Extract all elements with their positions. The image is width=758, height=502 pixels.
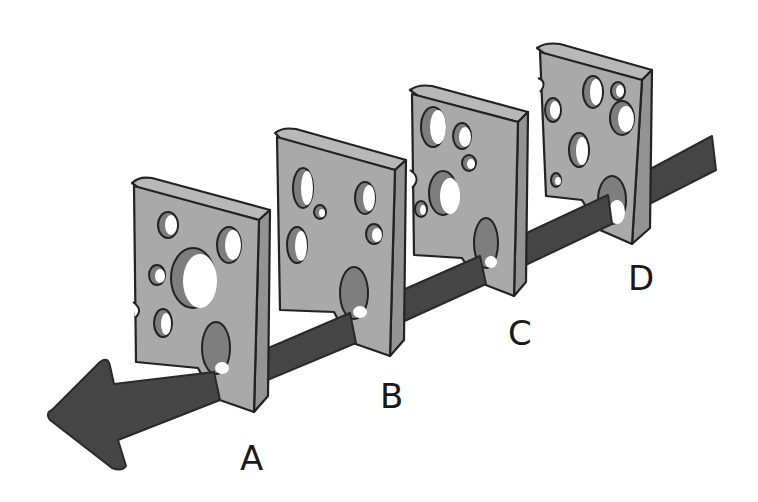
swiss-cheese-diagram: A B C D	[0, 0, 758, 502]
label-d: D	[628, 258, 654, 298]
label-c: C	[508, 313, 532, 353]
label-b: B	[380, 376, 403, 416]
label-a: A	[240, 438, 263, 478]
arrow-head	[48, 360, 220, 470]
